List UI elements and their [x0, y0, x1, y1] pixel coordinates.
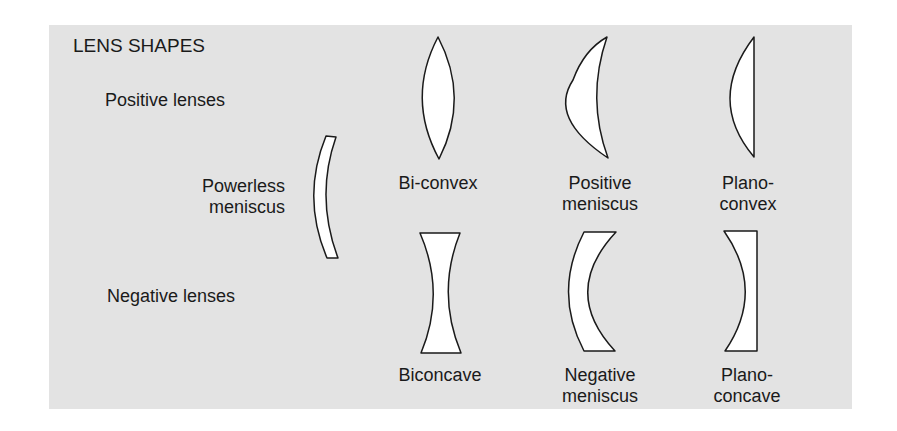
negative-meniscus-shape: [569, 232, 617, 351]
plano-concave-shape: [724, 231, 757, 351]
positive-meniscus-shape: [566, 37, 608, 158]
biconcave-shape: [420, 233, 461, 353]
lens-shapes-drawing: [0, 0, 897, 431]
plano-convex-shape: [730, 37, 754, 157]
biconvex-shape: [422, 37, 454, 159]
powerless-meniscus-shape: [314, 136, 338, 258]
